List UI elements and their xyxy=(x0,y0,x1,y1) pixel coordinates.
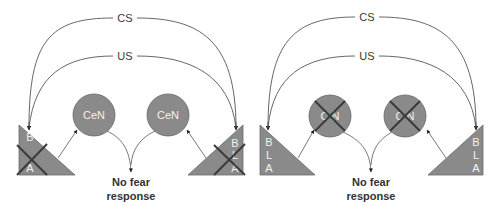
cs-arc: CS xyxy=(29,12,236,130)
bla-label-b: B xyxy=(231,137,238,149)
bla-to-cen-arrow xyxy=(427,130,446,158)
cen-node-left: CeN xyxy=(73,94,115,136)
bla-right-triangle: B L A xyxy=(188,125,245,175)
cen-to-output-arrow xyxy=(371,132,392,165)
output-caption-line1: No fear xyxy=(112,176,151,188)
right-panel: B L A B L A CS US C N xyxy=(260,11,483,202)
us-arc: US xyxy=(29,50,236,128)
bla-label-l: L xyxy=(266,149,272,161)
us-arc: US xyxy=(268,50,476,128)
bla-label-b: B xyxy=(26,131,33,143)
bla-label-l: L xyxy=(473,149,479,161)
diagram-canvas: B A B L A CS xyxy=(0,0,497,209)
bla-to-cen-arrow xyxy=(298,130,314,158)
bla-label-a: A xyxy=(472,162,480,174)
us-label: US xyxy=(117,50,132,62)
output-caption-line1: No fear xyxy=(352,176,391,188)
left-panel: B A B L A CS xyxy=(17,12,245,202)
cen-label: CeN xyxy=(83,109,105,121)
bla-to-cen-arrow xyxy=(187,130,206,158)
cs-label: CS xyxy=(117,12,132,24)
cen-to-output-arrow xyxy=(107,131,131,172)
bla-to-cen-arrow xyxy=(58,130,77,158)
bla-left-triangle: B L A xyxy=(260,125,315,175)
bla-label-b: B xyxy=(265,136,272,148)
output-caption-line2: response xyxy=(107,190,156,202)
cen-node-right: CeN xyxy=(147,94,189,136)
cen-label: CeN xyxy=(157,109,179,121)
us-label: US xyxy=(359,50,374,62)
bla-label-b: B xyxy=(472,136,479,148)
bla-left-triangle: B A xyxy=(17,125,75,175)
bla-right-triangle: B L A xyxy=(428,125,483,175)
bla-label-a: A xyxy=(265,162,273,174)
cen-node-left: C N xyxy=(309,95,351,137)
cen-to-output-arrow xyxy=(131,131,155,165)
cs-label: CS xyxy=(359,11,374,23)
cs-arc: CS xyxy=(268,11,476,130)
cen-to-output-arrow xyxy=(343,132,371,172)
cen-node-right: C N xyxy=(384,95,426,137)
output-caption-line2: response xyxy=(347,190,396,202)
